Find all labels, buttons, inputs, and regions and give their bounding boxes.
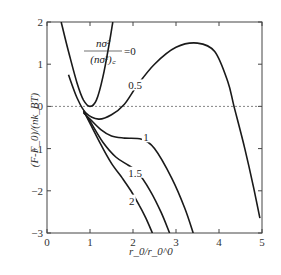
curve-0-5 <box>69 43 260 218</box>
curve-label: 2 <box>129 195 135 207</box>
x-tick-label: 5 <box>259 236 265 248</box>
x-tick-label: 4 <box>216 236 222 248</box>
x-tick-label: 3 <box>173 236 179 248</box>
curve-label: 1.5 <box>128 167 142 179</box>
y-tick-label: −2 <box>31 185 43 197</box>
y-tick-label: 1 <box>38 58 44 70</box>
chart: 012345210−1−2−3 0.511.52 nσ² (nσ²)꜀ =0 (… <box>0 0 281 275</box>
x-axis-label: r_0/r_0^0 <box>129 245 173 257</box>
y-tick-label: 2 <box>38 16 44 28</box>
axes-frame <box>47 22 262 233</box>
legend-numerator: nσ² <box>96 37 111 49</box>
curve-label: 1 <box>143 131 149 143</box>
series-label-0: =0 <box>124 45 136 57</box>
curve-label: 0.5 <box>128 79 142 91</box>
x-tick-label: 1 <box>87 236 93 248</box>
y-axis-label: (F-F_0)/(nk_BT) <box>28 92 41 167</box>
x-tick-label: 0 <box>44 236 50 248</box>
y-tick-label: −3 <box>31 227 43 239</box>
legend-denominator: (nσ²)꜀ <box>90 53 116 66</box>
legend-title: nσ² (nσ²)꜀ =0 <box>84 37 136 66</box>
